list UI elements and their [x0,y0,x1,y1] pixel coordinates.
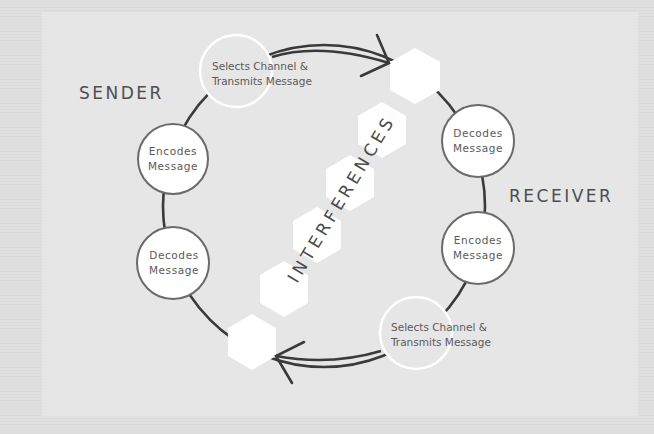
channel-bottom-circle [380,297,452,369]
receiver-encodes-node: Encodes Message [442,212,514,284]
hexagon-6 [390,48,440,104]
sender-encodes-node: Encodes Message [138,124,208,194]
sender-decodes-node: Decodes Message [137,227,209,299]
interferences-label: INTERFERENCES [283,111,399,286]
sender-decodes-line2: Message [149,264,199,276]
sender-decodes-line1: Decodes [149,249,199,261]
receiver-decodes-line1: Decodes [453,127,503,139]
channel-bottom-line1: Selects Channel & [391,321,487,333]
channel-top-line2: Transmits Message [211,75,312,87]
receiver-encodes-line2: Message [453,249,503,261]
channel-bottom-line2: Transmits Message [390,336,491,348]
diagram-frame: Encodes Message Decodes Message Decodes … [0,0,654,434]
hexagon-1 [228,314,276,370]
sender-label: SENDER [79,83,164,103]
bottom-arrow-arc [276,351,381,360]
channel-top-line1: Selects Channel & [212,60,308,72]
receiver-decodes-line2: Message [453,142,503,154]
sender-encodes-line2: Message [148,160,198,172]
receiver-encodes-line1: Encodes [454,234,502,246]
communication-cycle-diagram: Encodes Message Decodes Message Decodes … [0,0,654,434]
receiver-decodes-node: Decodes Message [442,105,514,177]
sender-encodes-line1: Encodes [149,145,197,157]
receiver-label: RECEIVER [509,186,613,206]
